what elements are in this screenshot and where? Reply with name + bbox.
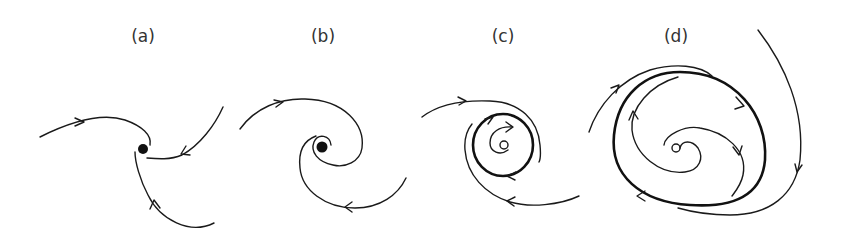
arrow-icon <box>507 197 515 206</box>
arrow-icon <box>458 97 466 105</box>
trajectory <box>135 152 214 227</box>
trajectory <box>40 117 150 145</box>
panel-c-diagram <box>422 97 579 206</box>
panel-a-diagram <box>40 107 223 227</box>
panel-d-diagram <box>589 30 802 215</box>
trajectory <box>465 124 579 205</box>
trajectory <box>678 30 801 215</box>
trajectory <box>422 101 540 162</box>
trajectory <box>240 99 362 166</box>
trajectory <box>147 107 223 159</box>
fixed-point <box>500 141 508 149</box>
trajectory <box>300 136 406 208</box>
panel-b-diagram <box>240 99 406 212</box>
fixed-point <box>138 144 148 154</box>
trajectory <box>589 66 712 132</box>
limit-cycle <box>473 114 533 176</box>
fixed-point <box>672 144 680 152</box>
limit-cycle <box>614 72 766 205</box>
trajectory <box>664 127 744 196</box>
trajectory <box>632 77 701 172</box>
fixed-point <box>317 142 328 153</box>
phase-portrait-figure <box>0 0 841 239</box>
arrow-icon <box>345 202 352 212</box>
